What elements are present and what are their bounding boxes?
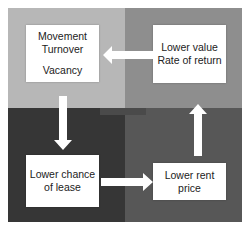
arrow-down-icon [54, 96, 72, 150]
cycle-diagram: Movement Turnover Vacancy Lower value Ra… [8, 8, 242, 222]
node-lower-value: Lower value Rate of return [153, 25, 226, 83]
center-divider [100, 108, 146, 115]
node-lower-chance-of-lease: Lower chance of lease [26, 155, 99, 207]
node-text: Turnover [42, 43, 84, 56]
arrow-up-icon [189, 104, 207, 156]
node-lower-rent-price: Lower rent price [153, 163, 226, 200]
node-text: of lease [44, 181, 81, 194]
node-text: Lower value [161, 41, 218, 54]
node-text: Lower chance [30, 168, 95, 181]
node-text: Movement [38, 30, 87, 43]
node-text: Lower rent [165, 169, 215, 182]
node-movement-turnover-vacancy: Movement Turnover Vacancy [26, 25, 99, 82]
node-text: price [178, 182, 201, 195]
node-text: Rate of return [157, 54, 221, 67]
node-text: Vacancy [43, 64, 83, 77]
arrow-right-icon [101, 173, 153, 191]
arrow-left-icon [103, 46, 155, 64]
